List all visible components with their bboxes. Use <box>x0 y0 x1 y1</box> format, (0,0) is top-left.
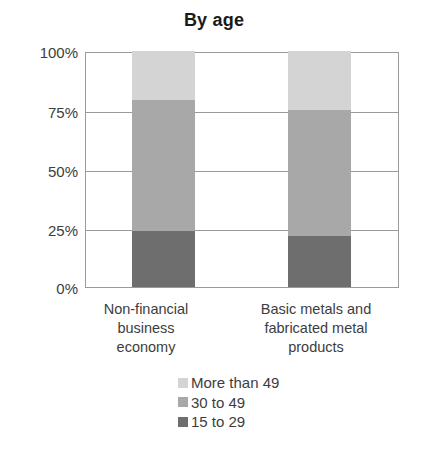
legend-label: More than 49 <box>191 375 279 390</box>
bar-segment-more-than-49[interactable] <box>288 51 351 110</box>
category-label-line: Basic metals and <box>246 300 386 319</box>
chart-legend: More than 49 30 to 49 15 to 29 <box>178 373 428 432</box>
chart-title: By age <box>0 10 428 31</box>
legend-item-30-to-49[interactable]: 30 to 49 <box>178 393 428 413</box>
bar-segment-30-to-49[interactable] <box>288 110 351 236</box>
legend-swatch-icon <box>178 397 188 407</box>
bar-segment-more-than-49[interactable] <box>132 51 195 100</box>
y-axis-tick-100: 100% <box>0 45 78 60</box>
chart-container: By age 100% 75% 50% 25% 0% Non-financial… <box>0 0 428 455</box>
bar-basic-metals-and-fabricated-metal-products[interactable] <box>288 51 351 287</box>
category-label-line: products <box>246 338 386 357</box>
category-label-line: business economy <box>86 319 206 357</box>
x-axis-category-label-1: Non-financial business economy <box>86 300 206 357</box>
legend-item-more-than-49[interactable]: More than 49 <box>178 373 428 393</box>
y-axis-tick-50: 50% <box>0 164 78 179</box>
legend-swatch-icon <box>178 378 188 388</box>
plot-area <box>85 52 399 288</box>
x-axis-category-label-2: Basic metals and fabricated metal produc… <box>246 300 386 357</box>
bar-segment-15-to-29[interactable] <box>288 236 351 287</box>
y-axis-tick-75: 75% <box>0 105 78 120</box>
y-axis-tick-25: 25% <box>0 223 78 238</box>
category-label-line: Non-financial <box>86 300 206 319</box>
bar-segment-30-to-49[interactable] <box>132 100 195 231</box>
category-label-line: fabricated metal <box>246 319 386 338</box>
y-axis-tick-0: 0% <box>0 281 78 296</box>
bar-non-financial-business-economy[interactable] <box>132 51 195 287</box>
legend-item-15-to-29[interactable]: 15 to 29 <box>178 412 428 432</box>
legend-label: 15 to 29 <box>191 414 245 429</box>
bar-segment-15-to-29[interactable] <box>132 231 195 287</box>
legend-label: 30 to 49 <box>191 395 245 410</box>
legend-swatch-icon <box>178 417 188 427</box>
